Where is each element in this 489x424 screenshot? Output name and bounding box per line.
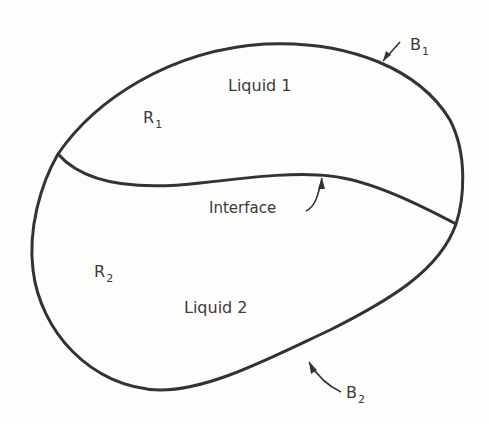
r2-main: R xyxy=(94,262,105,281)
b2-subscript: 2 xyxy=(358,393,365,406)
r1-label: R1 xyxy=(143,110,162,126)
b1-label: B1 xyxy=(410,37,429,53)
interface-arrowhead-icon xyxy=(318,178,325,189)
liquid1-label: Liquid 1 xyxy=(228,78,292,94)
r1-main: R xyxy=(143,108,154,127)
liquid2-label: Liquid 2 xyxy=(184,300,248,316)
interface-label: Interface xyxy=(209,201,276,216)
r1-subscript: 1 xyxy=(155,118,162,131)
b2-label: B2 xyxy=(346,385,365,401)
r2-subscript: 2 xyxy=(106,272,113,285)
b2-leader-icon xyxy=(309,362,341,392)
b1-main: B xyxy=(410,35,421,54)
b2-main: B xyxy=(346,383,357,402)
b1-subscript: 1 xyxy=(422,45,429,58)
diagram-canvas: Liquid 1 R1 B1 Interface R2 Liquid 2 B2 xyxy=(0,0,489,424)
r2-label: R2 xyxy=(94,264,113,280)
interface-leader-icon xyxy=(306,178,322,211)
